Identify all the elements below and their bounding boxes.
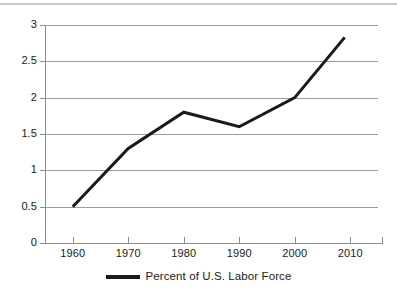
series-layer <box>45 25 378 243</box>
x-axis-label-1980: 1980 <box>171 248 196 259</box>
legend-line-swatch <box>106 275 140 279</box>
chart-legend: Percent of U.S. Labor Force <box>0 270 397 283</box>
top-divider <box>0 3 397 5</box>
x-axis-label-2000: 2000 <box>282 248 307 259</box>
chart-figure: 32.521.510.50 196019701980199020002010 P… <box>0 0 397 295</box>
legend-label: Percent of U.S. Labor Force <box>146 270 292 283</box>
y-axis-label-1: 1 <box>31 164 37 175</box>
x-axis-label-2010: 2010 <box>338 248 363 259</box>
y-axis-label-3: 3 <box>31 19 37 30</box>
x-axis-label-1990: 1990 <box>227 248 252 259</box>
gridline-0 <box>45 243 378 244</box>
y-axis-label-2: 2 <box>31 92 37 103</box>
x-axis-label-1960: 1960 <box>60 248 85 259</box>
plot-area <box>45 25 378 243</box>
y-axis-label-1.5: 1.5 <box>21 128 37 139</box>
x-axis-end-tick <box>382 237 383 244</box>
y-axis-label-0.5: 0.5 <box>21 201 37 212</box>
series-line-percent-of-us-labor-force <box>73 37 345 206</box>
x-axis-label-1970: 1970 <box>116 248 141 259</box>
y-axis-label-0: 0 <box>31 237 37 248</box>
y-axis-label-2.5: 2.5 <box>21 55 37 66</box>
